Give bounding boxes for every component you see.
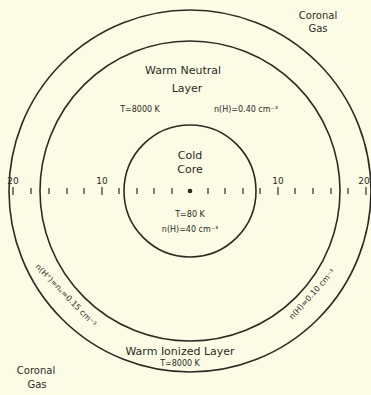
scale-label-right-20: 20 [358,176,370,186]
warm-ionized-density-right: n(H)=0.10 cm⁻³ [287,268,337,322]
cold-core-label-line2: Core [177,163,203,176]
scale-label-right-10: 10 [272,176,284,186]
warm-neutral-label-line2: Layer [172,82,203,95]
coronal-gas-bottom-label-line2: Gas [27,379,46,390]
warm-neutral-density: n(H)=0.40 cm⁻³ [214,105,278,114]
cold-core-density: n(H)=40 cm⁻³ [162,225,218,234]
coronal-gas-bottom-label-line1: Coronal [17,365,55,376]
interstellar-cloud-diagram: 20 10 10 20 Coronal Gas Warm Neutral Lay… [0,0,371,395]
warm-ionized-density-left: n(H⁺)=nₑ=0.15 cm⁻³ [34,262,98,328]
warm-neutral-temperature: T=8000 K [119,105,160,114]
scale-label-left-10: 10 [96,176,108,186]
warm-ionized-temperature: T=8000 K [159,359,200,368]
cold-core-temperature: T=80 K [174,210,205,219]
cold-core-label-line1: Cold [178,149,202,162]
coronal-gas-top-label-line2: Gas [308,23,327,34]
center-dot [188,189,193,194]
coronal-gas-top-label-line1: Coronal [299,10,337,21]
warm-neutral-label-line1: Warm Neutral [145,64,221,77]
warm-ionized-label: Warm Ionized Layer [125,345,235,358]
scale-label-left-20: 20 [7,176,19,186]
